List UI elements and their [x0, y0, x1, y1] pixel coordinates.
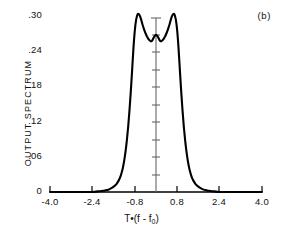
x-tick-label-neg08: -0.8 — [115, 196, 155, 207]
x-axis-label: T•(f - f0) — [0, 213, 283, 225]
x-tick-label-pos24: 2.4 — [199, 196, 239, 207]
center-vertical-axis — [151, 18, 161, 192]
x-axis-label-prefix: T•(f - f — [124, 213, 151, 224]
x-axis-label-suffix: ) — [155, 213, 158, 224]
panel-label: (b) — [258, 10, 271, 21]
x-tick-label-neg40: -4.0 — [30, 196, 70, 207]
x-tick-label-neg24: -2.4 — [72, 196, 112, 207]
x-tick-label-pos08: 0.8 — [157, 196, 197, 207]
figure-panel-b: OUTPUT SPECTRUM .30 .24 .18 .12 .06 0 — [0, 0, 283, 237]
x-tick-label-pos40: 4.0 — [242, 196, 282, 207]
